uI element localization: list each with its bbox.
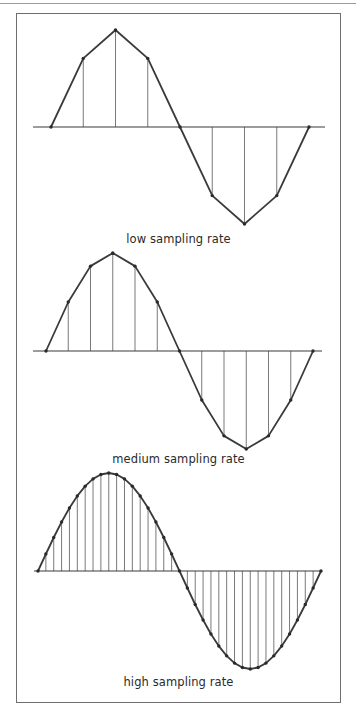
sample-point (83, 484, 86, 487)
sample-point (304, 603, 307, 606)
sample-point (241, 666, 244, 669)
sample-point (91, 477, 94, 480)
sample-point (222, 434, 225, 437)
sample-point (49, 125, 52, 128)
caption-low-sampling-rate: low sampling rate (16, 232, 341, 246)
sample-point (245, 447, 248, 450)
sample-point (200, 398, 203, 401)
sample-point (178, 569, 181, 572)
sample-point (296, 618, 299, 621)
sample-point (44, 552, 47, 555)
sample-point (146, 506, 149, 509)
panel-low-sampling (33, 28, 325, 225)
sample-point (107, 471, 110, 474)
sample-point (311, 349, 314, 352)
caption-high-sampling-rate: high sampling rate (16, 675, 341, 689)
sample-point (82, 57, 85, 60)
sample-point (243, 222, 246, 225)
sample-point (178, 125, 181, 128)
sample-point (170, 552, 173, 555)
sample-point (225, 654, 228, 657)
sample-point (44, 349, 47, 352)
sample-point (209, 632, 212, 635)
sample-point (319, 569, 322, 572)
sample-point (201, 618, 204, 621)
sample-point (115, 473, 118, 476)
sample-point (217, 644, 220, 647)
sampling-diagram (0, 0, 356, 715)
panel-medium-sampling (33, 251, 322, 450)
sample-point (178, 349, 181, 352)
sample-point (280, 644, 283, 647)
sample-point (36, 569, 39, 572)
sample-point (211, 194, 214, 197)
sample-point (114, 28, 117, 31)
sample-point (264, 661, 267, 664)
sample-point (133, 264, 136, 267)
sample-point (111, 251, 114, 254)
panel-high-sampling (34, 471, 323, 670)
sample-point (99, 473, 102, 476)
sample-point (123, 477, 126, 480)
sample-point (60, 520, 63, 523)
sample-point (154, 520, 157, 523)
sample-point (267, 434, 270, 437)
sample-point (249, 667, 252, 670)
sample-point (311, 586, 314, 589)
sample-point (256, 666, 259, 669)
caption-medium-sampling-rate: medium sampling rate (16, 452, 341, 466)
sample-point (186, 586, 189, 589)
sample-point (272, 654, 275, 657)
sample-point (146, 57, 149, 60)
sample-point (194, 603, 197, 606)
sample-point (89, 264, 92, 267)
sample-point (275, 194, 278, 197)
sample-point (288, 632, 291, 635)
sample-point (233, 661, 236, 664)
sample-point (52, 536, 55, 539)
sample-point (138, 494, 141, 497)
sample-point (156, 300, 159, 303)
sample-point (67, 300, 70, 303)
sample-point (131, 484, 134, 487)
sample-point (289, 398, 292, 401)
sample-point (76, 494, 79, 497)
sample-point (307, 125, 310, 128)
sample-point (162, 536, 165, 539)
sample-point (68, 506, 71, 509)
